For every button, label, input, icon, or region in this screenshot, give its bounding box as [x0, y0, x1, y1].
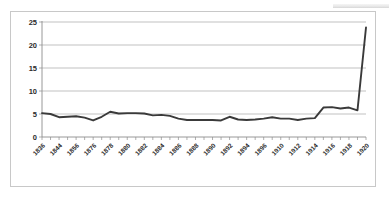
y-axis-tick-label: 0: [33, 133, 37, 142]
x-axis-tick-label: 1890: [202, 141, 217, 156]
x-axis-tick-label: 1878: [99, 141, 114, 156]
x-axis-tick-label: 1880: [116, 141, 131, 156]
x-axis-tick-label: 1844: [48, 141, 63, 156]
x-axis-tick-label: 1892: [219, 141, 234, 156]
x-axis-tick-label: 1914: [304, 141, 319, 156]
y-axis-tick-label: 10: [29, 87, 37, 96]
x-axis-tick-label: 1918: [338, 141, 353, 156]
chart-container: 0510152025183618441856187618781880188218…: [10, 11, 376, 187]
data-series-line: [42, 28, 366, 121]
y-axis-tick-label: 25: [29, 18, 37, 27]
x-axis-tick-label: 1910: [270, 141, 285, 156]
x-axis-tick-label: 1912: [287, 141, 302, 156]
y-axis-tick-label: 20: [29, 41, 37, 50]
x-axis-tick-label: 1888: [185, 141, 200, 156]
x-axis-tick-label: 1920: [355, 141, 370, 156]
x-axis-tick-label: 1894: [236, 141, 251, 156]
top-edge-artifact: [333, 4, 389, 8]
x-axis-tick-label: 1882: [134, 141, 149, 156]
x-axis-tick-label: 1886: [168, 141, 183, 156]
line-chart: 0510152025183618441856187618781880188218…: [11, 12, 375, 186]
y-axis-tick-label: 15: [29, 64, 37, 73]
y-axis-tick-label: 5: [33, 110, 37, 119]
x-axis-tick-label: 1836: [31, 141, 46, 156]
x-axis-tick-label: 1856: [65, 141, 80, 156]
x-axis-tick-label: 1916: [321, 141, 336, 156]
x-axis-tick-label: 1896: [253, 141, 268, 156]
x-axis-tick-label: 1876: [82, 141, 97, 156]
x-axis-tick-label: 1884: [151, 141, 166, 156]
